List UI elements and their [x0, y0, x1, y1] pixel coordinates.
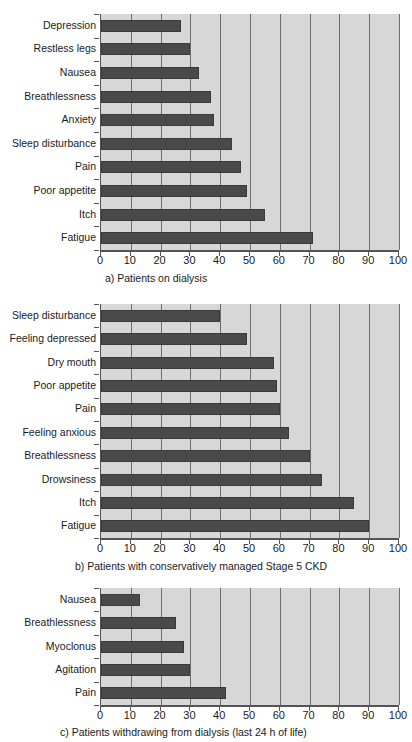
x-tick-label: 60	[273, 709, 285, 721]
y-tick	[94, 705, 99, 706]
category-label: Fatigue	[61, 232, 96, 243]
category-label: Fatigue	[61, 520, 96, 531]
category-label: Itch	[79, 209, 96, 220]
x-tick-label: 10	[124, 542, 136, 554]
x-tick-label: 0	[97, 254, 103, 266]
panel-c-bars	[101, 588, 399, 705]
y-tick	[94, 444, 99, 445]
panel-c-caption: c) Patients withdrawing from dialysis (l…	[60, 726, 307, 738]
x-tick-label: 10	[124, 254, 136, 266]
category-label: Feeling anxious	[22, 427, 96, 438]
bar	[101, 497, 354, 509]
y-tick	[94, 538, 99, 539]
x-tick-label: 80	[332, 709, 344, 721]
y-tick	[94, 108, 99, 109]
x-tick-label: 90	[362, 254, 374, 266]
x-tick-label: 100	[389, 254, 407, 266]
y-tick	[94, 85, 99, 86]
gridline-100	[399, 304, 400, 538]
bar	[101, 357, 274, 369]
x-tick-label: 30	[183, 254, 195, 266]
category-label: Myoclonus	[46, 641, 96, 652]
bar	[101, 138, 232, 150]
panel-c-plot-area	[100, 588, 399, 705]
y-tick	[94, 682, 99, 683]
category-label: Nausea	[60, 67, 96, 78]
bar	[101, 427, 289, 439]
gridline-100	[399, 14, 400, 250]
x-tick-label: 40	[213, 709, 225, 721]
bar	[101, 687, 226, 699]
category-label: Poor appetite	[34, 380, 96, 391]
y-tick	[94, 132, 99, 133]
y-tick	[94, 468, 99, 469]
y-tick	[94, 327, 99, 328]
panel-b-caption: b) Patients with conservatively managed …	[75, 560, 327, 572]
panel-b-plot-area	[100, 304, 399, 538]
bar	[101, 403, 280, 415]
y-tick	[94, 515, 99, 516]
bar	[101, 67, 199, 79]
category-label: Restless legs	[34, 43, 96, 54]
x-tick-label: 40	[213, 254, 225, 266]
x-tick-label: 100	[389, 542, 407, 554]
category-label: Sleep disturbance	[12, 138, 96, 149]
panel-a-plot-area	[100, 14, 399, 250]
y-tick	[94, 226, 99, 227]
category-label: Agitation	[55, 664, 96, 675]
bar	[101, 114, 214, 126]
category-label: Pain	[75, 403, 96, 414]
x-tick-label: 30	[183, 709, 195, 721]
x-tick-label: 50	[243, 254, 255, 266]
bar	[101, 161, 241, 173]
x-tick-label: 60	[273, 254, 285, 266]
x-tick-label: 70	[302, 709, 314, 721]
category-label: Dry mouth	[48, 357, 96, 368]
category-label: Breathlessness	[24, 450, 96, 461]
y-tick	[94, 398, 99, 399]
bar	[101, 43, 190, 55]
y-tick	[94, 374, 99, 375]
y-tick	[94, 156, 99, 157]
x-tick-label: 80	[332, 254, 344, 266]
chart-panel-b: Sleep disturbanceFeeling depressedDry mo…	[0, 290, 412, 578]
y-tick	[94, 14, 99, 15]
bar	[101, 232, 313, 244]
bar	[101, 91, 211, 103]
category-label: Anxiety	[62, 114, 96, 125]
category-label: Poor appetite	[34, 185, 96, 196]
gridline-100	[399, 588, 400, 705]
x-tick-label: 90	[362, 709, 374, 721]
bar	[101, 185, 247, 197]
x-tick-label: 80	[332, 542, 344, 554]
category-label: Breathlessness	[24, 617, 96, 628]
x-tick-label: 40	[213, 542, 225, 554]
y-tick	[94, 179, 99, 180]
x-tick-label: 20	[153, 542, 165, 554]
bar	[101, 474, 322, 486]
bar	[101, 310, 220, 322]
bar	[101, 380, 277, 392]
y-tick	[94, 658, 99, 659]
x-tick-label: 20	[153, 254, 165, 266]
x-tick-label: 100	[389, 709, 407, 721]
symptom-prevalence-figure: DepressionRestless legsNauseaBreathlessn…	[0, 0, 412, 742]
x-tick-label: 70	[302, 542, 314, 554]
y-tick	[94, 351, 99, 352]
bar	[101, 450, 310, 462]
x-tick-label: 30	[183, 542, 195, 554]
x-tick-label: 10	[124, 709, 136, 721]
bar	[101, 664, 190, 676]
y-tick	[94, 250, 99, 251]
bar	[101, 20, 181, 32]
y-tick	[94, 203, 99, 204]
y-tick	[94, 421, 99, 422]
x-tick-label: 0	[97, 542, 103, 554]
bar	[101, 641, 184, 653]
chart-panel-a: DepressionRestless legsNauseaBreathlessn…	[0, 0, 412, 290]
category-label: Pain	[75, 687, 96, 698]
x-tick-label: 50	[243, 709, 255, 721]
x-tick-label: 20	[153, 709, 165, 721]
y-tick	[94, 588, 99, 589]
y-tick	[94, 38, 99, 39]
